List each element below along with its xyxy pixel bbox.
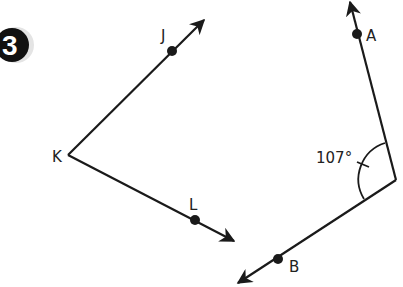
label-a: A (366, 27, 377, 45)
angle-107: A B 107° (238, 2, 396, 283)
point-j (167, 46, 177, 56)
point-a (352, 29, 362, 39)
label-b: B (289, 258, 299, 276)
problem-number-badge: 3 (0, 27, 34, 63)
angle-measure: 107° (316, 149, 352, 167)
diagram-canvas: 3 K J L A B 107° (0, 0, 403, 287)
label-j: J (160, 27, 165, 45)
problem-number: 3 (2, 30, 18, 61)
angle-jkl: K J L (52, 20, 234, 241)
ray-b (238, 180, 396, 283)
ray-kj (68, 20, 204, 155)
label-l: L (189, 196, 198, 214)
point-b (273, 254, 283, 264)
label-k: K (52, 148, 63, 166)
point-l (190, 215, 200, 225)
ray-kl (68, 155, 234, 241)
